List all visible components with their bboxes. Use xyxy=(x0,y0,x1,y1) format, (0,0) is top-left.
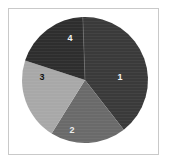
pie-slice-label-1: 1 xyxy=(117,72,122,82)
pie-slice-label-2: 2 xyxy=(69,125,74,135)
figure-root: 1234 xyxy=(0,0,170,167)
pie-slice-label-3: 3 xyxy=(39,72,44,82)
pie-slice-label-4: 4 xyxy=(67,33,72,43)
pie-chart-svg: 1234 xyxy=(0,0,170,167)
pie-chart: 1234 xyxy=(0,0,170,167)
